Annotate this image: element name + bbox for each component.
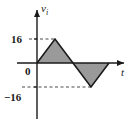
y-tick-label-positive: 16 <box>11 34 22 45</box>
x-axis-title: t <box>121 67 124 78</box>
waveform-figure: 16 0 −16 vi t <box>0 0 136 125</box>
y-axis-title: vi <box>41 3 48 17</box>
y-axis-title-subscript: i <box>46 8 48 17</box>
y-tick-label-negative: −16 <box>4 92 21 103</box>
plot-area <box>0 0 136 125</box>
y-tick-label-origin: 0 <box>25 66 31 77</box>
y-axis-arrowhead <box>34 10 40 17</box>
